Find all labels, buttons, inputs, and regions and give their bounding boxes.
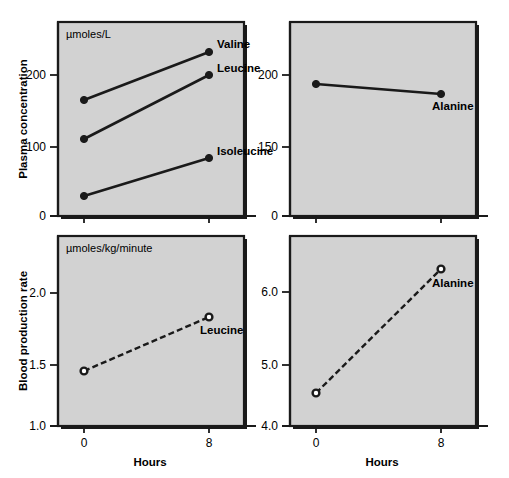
units-label-bottom-left: µmoles/kg/minute: [66, 242, 152, 254]
ytick-label-4-0-bottom-right: 4.0: [261, 419, 278, 433]
ytick-label-1-5-bottom-left: 1.5: [29, 358, 46, 372]
marker-leucine-bpr-0h: [81, 368, 88, 375]
marker-leucine-conc-8h: [205, 71, 212, 78]
ytick-label-200-top-left: 200: [26, 68, 46, 82]
marker-valine-0h: [80, 96, 87, 103]
panel-background-top-left: [58, 22, 244, 216]
marker-alanine-conc-0h: [312, 80, 319, 87]
ytick-label-0-top-right: 0: [271, 209, 278, 223]
marker-alanine-bpr-8h: [438, 266, 445, 273]
four-panel-line-chart: 200 100 0 µmoles/L Plasma concentration …: [0, 0, 509, 478]
ytick-label-200-top-right: 200: [258, 68, 278, 82]
series-label-alanine-bpr: Alanine: [432, 277, 474, 289]
xtick-label-8-bottom-left: 8: [206, 436, 213, 450]
xtick-label-0-bottom-left: 0: [81, 436, 88, 450]
series-label-valine: Valine: [217, 38, 250, 50]
panel-background-bottom-right: [290, 236, 476, 426]
ytick-label-100-top-left: 100: [26, 140, 46, 154]
x-axis-title-bottom-left: Hours: [133, 456, 166, 468]
marker-alanine-bpr-0h: [313, 390, 320, 397]
units-label-top-left: µmoles/L: [66, 28, 111, 40]
marker-leucine-conc-0h: [80, 135, 87, 142]
marker-valine-8h: [205, 48, 212, 55]
series-label-leucine-conc: Leucine: [217, 62, 260, 74]
ytick-label-2-0-bottom-left: 2.0: [29, 286, 46, 300]
series-label-alanine-conc: Alanine: [432, 100, 474, 112]
xtick-label-8-bottom-right: 8: [438, 436, 445, 450]
ytick-label-1-0-bottom-left: 1.0: [29, 419, 46, 433]
marker-isoleucine-8h: [205, 154, 212, 161]
panel-top-right: 200 150 0 Alanine: [258, 22, 488, 223]
ytick-label-5-0-bottom-right: 5.0: [261, 358, 278, 372]
marker-leucine-bpr-8h: [206, 314, 213, 321]
x-axis-title-bottom-right: Hours: [365, 456, 398, 468]
marker-isoleucine-0h: [80, 192, 87, 199]
ytick-label-6-0-bottom-right: 6.0: [261, 285, 278, 299]
panel-top-left: 200 100 0 µmoles/L Plasma concentration …: [17, 22, 273, 223]
xtick-label-0-bottom-right: 0: [313, 436, 320, 450]
y-axis-title-top-left: Plasma concentration: [17, 59, 29, 179]
marker-alanine-conc-8h: [437, 90, 444, 97]
ytick-label-150-top-right: 150: [258, 140, 278, 154]
panel-bottom-right: 6.0 5.0 4.0 0 8 Hours Alanine: [261, 236, 488, 468]
ytick-label-0-top-left: 0: [39, 209, 46, 223]
y-axis-title-bottom-left: Blood production rate: [17, 271, 29, 391]
series-label-leucine-bpr: Leucine: [200, 324, 243, 336]
figure-container: 200 100 0 µmoles/L Plasma concentration …: [0, 0, 509, 478]
panel-bottom-left: 2.0 1.5 1.0 0 8 Hours Blood production r…: [17, 236, 256, 468]
panel-background-top-right: [290, 22, 476, 216]
